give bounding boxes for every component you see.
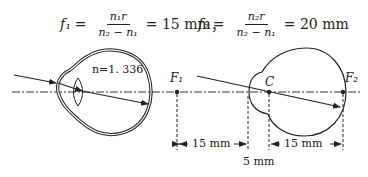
dimension-left-label: 15 mm bbox=[192, 138, 230, 150]
refractive-index-label: n=1. 336 bbox=[92, 64, 143, 76]
dimension-right-label: 15 mm bbox=[284, 138, 322, 150]
ray-to-retina-left bbox=[82, 91, 148, 104]
label-c: C bbox=[265, 76, 274, 88]
incident-ray-left bbox=[14, 75, 56, 83]
refracted-ray-left bbox=[58, 83, 82, 91]
focal-point-f2 bbox=[341, 90, 345, 94]
label-f1: F₁ bbox=[170, 72, 183, 84]
dimension-gap-label: 5 mm bbox=[243, 156, 274, 168]
focal-point-f1 bbox=[175, 90, 179, 94]
center-point-c bbox=[267, 90, 271, 94]
eye-optics-diagram bbox=[0, 0, 368, 177]
label-f2: F₂ bbox=[345, 72, 358, 84]
